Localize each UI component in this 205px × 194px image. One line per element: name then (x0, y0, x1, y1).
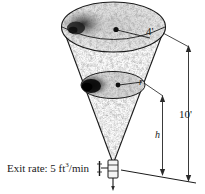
exit-rate-suffix: /min (69, 162, 89, 174)
exit-rate-label: Exit rate: 5 ft3/min (7, 163, 89, 174)
water-radius-label: r (139, 77, 143, 87)
depth-arrow-up (160, 95, 165, 102)
depth-arrow-down (160, 169, 165, 176)
exit-rate-prefix: Exit rate: 5 ft (7, 162, 65, 174)
outlet-valve (97, 160, 118, 191)
top-radius-label: 4' (146, 26, 153, 37)
dimension-baseline (121, 170, 196, 183)
flow-arrow (111, 186, 115, 191)
valve-body (108, 160, 118, 178)
water-height-label: h (155, 130, 160, 140)
conical-tank-diagram: 4' r 10' h Exit rate: 5 ft3/min (0, 0, 205, 194)
water-center-dot (116, 83, 121, 88)
top-center-dot (113, 27, 118, 32)
tank-height-label: 10' (179, 109, 192, 120)
